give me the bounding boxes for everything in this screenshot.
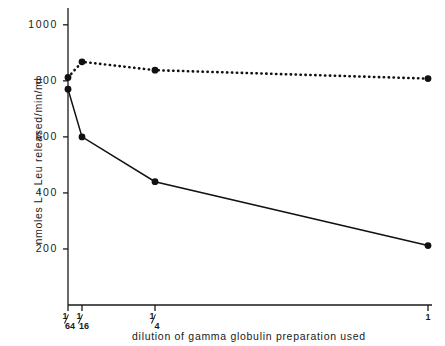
y-axis-ticks — [63, 25, 68, 249]
x-axis-tick-label: 14 — [140, 312, 170, 331]
x-axis-tick-label: 116 — [67, 312, 97, 331]
plot-canvas — [0, 0, 445, 346]
y-axis-tick-label: 1000 — [0, 18, 58, 30]
data-point-marker — [79, 133, 86, 140]
series-line-solid-series — [68, 89, 428, 245]
y-axis-tick-label: 200 — [0, 242, 58, 254]
series-line-dotted-series — [68, 62, 428, 79]
y-axis-tick-label: 800 — [0, 74, 58, 86]
data-point-marker — [65, 86, 72, 93]
data-series-layer — [65, 58, 432, 249]
y-axis-tick-label: 600 — [0, 130, 58, 142]
data-point-marker — [79, 58, 86, 65]
data-point-marker — [152, 178, 159, 185]
data-point-marker — [65, 74, 72, 81]
x-axis-tick-label: 1 — [418, 312, 438, 322]
fraction-denominator: 16 — [69, 321, 99, 331]
chart-figure: nmoles L - Leu released/min/ml dilution … — [0, 0, 445, 346]
data-point-marker — [152, 67, 159, 74]
axis-lines — [68, 8, 432, 305]
data-point-marker — [425, 75, 432, 82]
x-axis-ticks — [68, 305, 428, 311]
fraction-denominator: 4 — [142, 321, 172, 331]
x-axis-title: dilution of gamma globulin preparation u… — [68, 330, 430, 342]
y-axis-tick-label: 400 — [0, 186, 58, 198]
data-point-marker — [425, 242, 432, 249]
